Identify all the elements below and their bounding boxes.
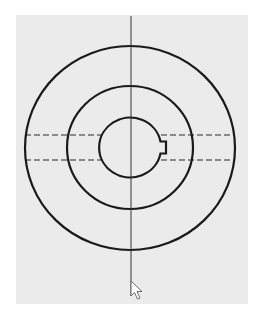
middle-circle — [67, 86, 193, 209]
mouse-pointer-arrow-icon — [131, 281, 142, 299]
hidden-lines — [25, 135, 235, 160]
inner-bore-with-keyway — [99, 118, 166, 178]
outer-circle — [25, 46, 235, 250]
drawing-viewport[interactable] — [0, 0, 257, 328]
technical-drawing — [0, 0, 257, 328]
